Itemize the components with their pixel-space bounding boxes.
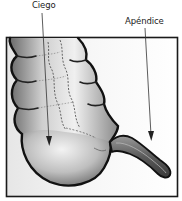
diagram-canvas — [0, 0, 182, 201]
anatomy-diagram: Ciego Apéndice — [0, 0, 182, 201]
label-apendice: Apéndice — [125, 17, 164, 26]
label-ciego: Ciego — [32, 1, 56, 10]
